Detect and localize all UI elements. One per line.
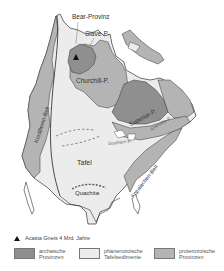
legend-label-phanerozoic: phanerozoische Tafelsedimente — [104, 248, 144, 261]
label-quachita: Quachita — [75, 190, 99, 196]
legend-item-archaic: archaische Provinzen — [14, 248, 79, 261]
north-america-geology-map — [0, 0, 224, 232]
swatch-phanerozoic — [79, 248, 100, 259]
legend-marker-text: Acasta Gneis 4 Mrd. Jahre — [25, 235, 90, 241]
triangle-marker-icon — [14, 236, 20, 241]
label-slave-province: Slave-P. — [85, 31, 109, 38]
label-tafel: Tafel — [77, 159, 92, 166]
legend-item-phanerozoic: phanerozoische Tafelsedimente — [79, 248, 144, 261]
legend-label-proterozoic: proterozoische Provinzen — [179, 248, 219, 261]
baja-california — [24, 182, 34, 214]
legend: Acasta Gneis 4 Mrd. Jahre archaische Pro… — [0, 232, 224, 271]
label-churchill-province: Churchill-P. — [76, 78, 109, 85]
legend-marker-note: Acasta Gneis 4 Mrd. Jahre — [14, 235, 90, 241]
legend-label-archaic: archaische Provinzen — [39, 248, 79, 261]
swatch-proterozoic — [154, 248, 175, 259]
legend-item-proterozoic: proterozoische Provinzen — [154, 248, 219, 261]
swatch-archaic — [14, 248, 35, 259]
label-bear-province: Bear-Provinz — [72, 14, 110, 21]
